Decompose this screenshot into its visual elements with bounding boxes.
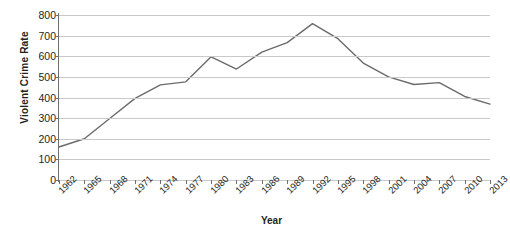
y-tick-mark xyxy=(55,180,59,181)
gridline xyxy=(59,77,490,78)
y-tick-label: 600 xyxy=(22,51,56,62)
y-tick-label: 0 xyxy=(22,175,56,186)
gridline xyxy=(59,139,490,140)
y-tick-label: 400 xyxy=(22,93,56,104)
x-axis-title-text: Year xyxy=(261,215,282,226)
x-axis-title: Year xyxy=(0,215,505,226)
gridline xyxy=(59,159,490,160)
gridline xyxy=(59,118,490,119)
y-tick-mark xyxy=(55,56,59,57)
y-axis-tick-labels: 0100200300400500600700800 xyxy=(16,0,56,238)
y-tick-mark xyxy=(55,118,59,119)
gridline xyxy=(59,56,490,57)
y-tick-label: 800 xyxy=(22,10,56,21)
gridline xyxy=(59,98,490,99)
gridline xyxy=(59,36,490,37)
plot-area xyxy=(59,15,490,180)
y-tick-label: 300 xyxy=(22,113,56,124)
y-tick-label: 100 xyxy=(22,154,56,165)
y-tick-mark xyxy=(55,98,59,99)
y-tick-mark xyxy=(55,36,59,37)
y-tick-mark xyxy=(55,139,59,140)
y-tick-mark xyxy=(55,15,59,16)
y-tick-label: 500 xyxy=(22,72,56,83)
gridline xyxy=(59,15,490,16)
x-tick-label: 2013 xyxy=(487,173,510,196)
y-tick-mark xyxy=(55,159,59,160)
y-tick-label: 700 xyxy=(22,31,56,42)
y-tick-label: 200 xyxy=(22,134,56,145)
y-tick-mark xyxy=(55,77,59,78)
series-polyline xyxy=(59,24,490,147)
